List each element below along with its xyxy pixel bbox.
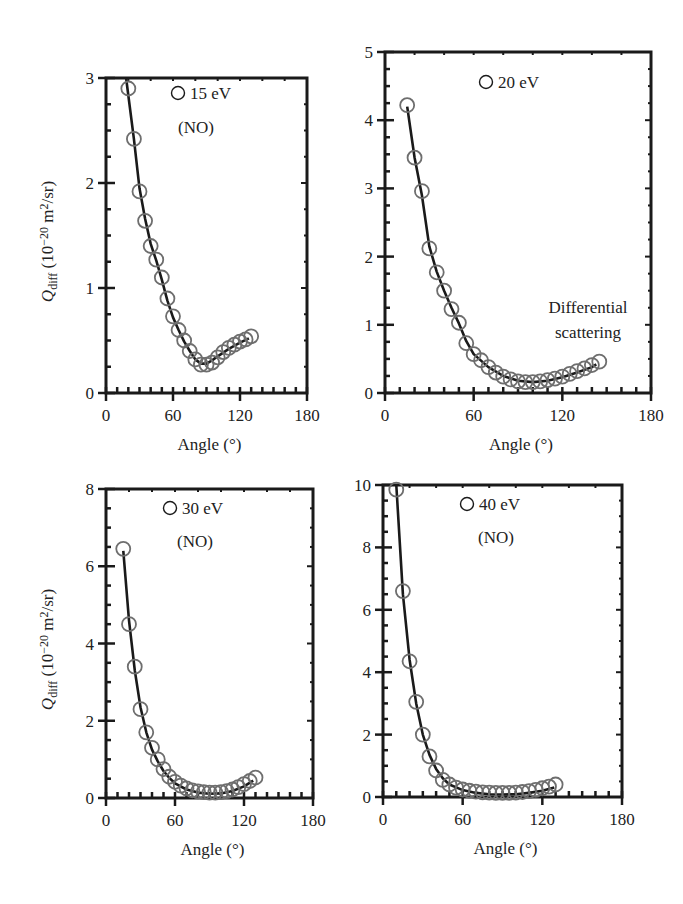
y-tick-label: 0 [86, 789, 95, 808]
y-tick-label: 0 [86, 384, 95, 403]
legend-label: 15 eV [190, 84, 232, 103]
x-tick-label: 120 [231, 811, 257, 830]
x-tick-label: 120 [227, 406, 253, 425]
annotation-text: (NO) [177, 532, 213, 551]
annotation-text: (NO) [478, 528, 514, 547]
fit-curve [396, 485, 554, 795]
y-tick-label: 0 [363, 788, 372, 807]
legend-label: 30 eV [182, 499, 224, 518]
x-tick-label: 60 [165, 406, 182, 425]
x-tick-label: 180 [300, 811, 326, 830]
y-tick-label: 1 [86, 279, 95, 298]
legend-marker-icon [461, 498, 474, 511]
y-axis-title: Qdiff (10−20 m2/sr) [37, 589, 59, 710]
x-tick-label: 180 [294, 406, 320, 425]
x-tick-label: 180 [609, 810, 635, 829]
legend-marker-icon [164, 502, 177, 515]
x-axis-title: Angle (°) [181, 840, 245, 859]
y-tick-label: 8 [86, 480, 95, 499]
y-tick-label: 2 [365, 248, 374, 267]
y-tick-label: 2 [86, 174, 95, 193]
y-tick-label: 2 [86, 712, 95, 731]
y-tick-label: 10 [354, 476, 371, 495]
annotation-text: (NO) [178, 118, 214, 137]
y-tick-label: 3 [86, 69, 95, 88]
x-tick-label: 0 [381, 406, 390, 425]
y-tick-label: 3 [365, 179, 374, 198]
x-tick-label: 60 [454, 810, 471, 829]
annotation-text: Differential [549, 298, 628, 317]
panel-40ev: 060120180Angle (°)024681040 eV(NO) [354, 476, 635, 858]
x-tick-label: 120 [550, 406, 576, 425]
y-tick-label: 5 [365, 43, 374, 62]
y-tick-label: 4 [363, 663, 372, 682]
y-tick-label: 6 [86, 557, 95, 576]
panel-20ev: 060120180Angle (°)01234520 eVDifferentia… [365, 43, 664, 454]
annotation-text: scattering [555, 323, 622, 342]
y-tick-label: 8 [363, 538, 372, 557]
x-tick-label: 60 [465, 406, 482, 425]
differential-scattering-figure: 060120180Angle (°)0123Qdiff (10−20 m2/sr… [0, 0, 683, 904]
panel-15ev: 060120180Angle (°)0123Qdiff (10−20 m2/sr… [37, 69, 320, 454]
x-tick-label: 0 [379, 810, 388, 829]
x-axis-title: Angle (°) [474, 839, 538, 858]
legend-label: 40 eV [479, 495, 521, 514]
y-tick-label: 4 [86, 635, 95, 654]
y-tick-label: 0 [365, 384, 374, 403]
y-axis-title: Qdiff (10−20 m2/sr) [37, 181, 59, 302]
legend-marker-icon [480, 76, 493, 89]
x-axis-title: Angle (°) [178, 435, 242, 454]
panel-30ev: 060120180Angle (°)02468Qdiff (10−20 m2/s… [37, 480, 326, 859]
legend-label: 20 eV [498, 73, 540, 92]
fit-curve [123, 551, 253, 794]
x-tick-label: 0 [102, 406, 111, 425]
x-axis-title: Angle (°) [489, 435, 553, 454]
x-tick-label: 180 [638, 406, 664, 425]
y-tick-label: 1 [365, 316, 374, 335]
y-tick-label: 2 [363, 726, 372, 745]
x-tick-label: 60 [167, 811, 184, 830]
y-tick-label: 6 [363, 601, 372, 620]
legend-marker-icon [172, 87, 185, 100]
x-tick-label: 120 [530, 810, 556, 829]
x-tick-label: 0 [102, 811, 111, 830]
y-tick-label: 4 [365, 111, 374, 130]
